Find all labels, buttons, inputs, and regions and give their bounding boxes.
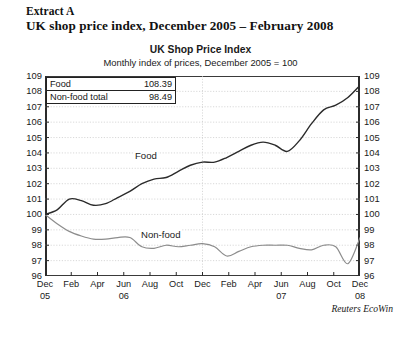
legend-series-value: 98.49 [149, 91, 172, 103]
chart-title: UK Shop Price Index [0, 44, 401, 55]
legend-series-name: Non-food total [50, 91, 108, 103]
legend-series-name: Food [50, 78, 71, 90]
source-attribution: Reuters EcoWin [0, 303, 393, 314]
y-tick-label: 107 [18, 102, 42, 112]
y-tick-label: 105 [18, 133, 42, 143]
gridlines [45, 91, 360, 260]
y-tick-label: 104 [364, 148, 380, 158]
y-tick-label: 100 [364, 209, 380, 219]
extract-heading: Extract A UK shop price index, December … [26, 4, 386, 34]
extract-label: Extract A [26, 4, 386, 18]
y-tick-label: 97 [364, 256, 374, 266]
y-tick-label: 108 [18, 86, 42, 96]
x-axis-year-labels: 05060708 [45, 291, 360, 303]
x-tick-label: Aug [299, 279, 315, 289]
y-tick-label: 104 [18, 148, 42, 158]
y-tick-label: 102 [18, 179, 42, 189]
chart-subtitle: Monthly index of prices, December 2005 =… [0, 57, 401, 68]
y-tick-label: 101 [18, 194, 42, 204]
y-tick-label: 106 [364, 117, 380, 127]
extract-title: UK shop price index, December 2005 – Feb… [26, 18, 386, 34]
chart-plot [45, 76, 360, 276]
x-tick-label: Apr [248, 279, 262, 289]
x-tick-label: Feb [221, 279, 237, 289]
legend-row: Non-food total 98.49 [47, 90, 175, 103]
y-tick-label: 98 [364, 240, 374, 250]
x-tick-label: Aug [142, 279, 158, 289]
series-annotation-food: Food [134, 150, 158, 161]
y-tick-label: 98 [18, 240, 42, 250]
x-tick-label: Apr [90, 279, 104, 289]
y-tick-label: 106 [18, 117, 42, 127]
x-tick-label: Dec [194, 279, 210, 289]
y-tick-label: 108 [364, 86, 380, 96]
x-tick-label: Oct [169, 279, 183, 289]
y-tick-label: 109 [364, 71, 380, 81]
y-tick-label: 101 [364, 194, 380, 204]
x-tick-label: Dec [352, 279, 368, 289]
x-year-label: 07 [276, 291, 286, 301]
legend-series-value: 108.39 [144, 78, 172, 90]
y-tick-label: 103 [364, 163, 380, 173]
x-axis-labels: DecFebAprJunAugOctDecFebAprJunAugOctDec [45, 279, 360, 291]
x-tick-marks [45, 272, 360, 276]
y-tick-marks-left [45, 76, 49, 276]
y-tick-label: 99 [364, 225, 374, 235]
x-tick-label: Oct [327, 279, 341, 289]
y-tick-label: 99 [18, 225, 42, 235]
legend-box: Food 108.39 Non-food total 98.49 [46, 77, 176, 104]
x-tick-label: Dec [37, 279, 53, 289]
y-axis-labels-left: 96979899100101102103104105106107108109 [18, 76, 42, 276]
y-tick-label: 107 [364, 102, 380, 112]
y-tick-label: 105 [364, 133, 380, 143]
x-tick-label: Jun [116, 279, 131, 289]
y-tick-label: 100 [18, 209, 42, 219]
y-axis-labels-right: 96979899100101102103104105106107108109 [364, 76, 394, 276]
screenshot-root: Extract A UK shop price index, December … [0, 0, 401, 337]
y-tick-label: 103 [18, 163, 42, 173]
x-year-label: 05 [40, 291, 50, 301]
series-annotation-nonfood: Non-food [140, 229, 181, 240]
legend-row: Food 108.39 [47, 78, 175, 90]
x-tick-label: Feb [63, 279, 79, 289]
x-tick-label: Jun [274, 279, 289, 289]
y-tick-label: 97 [18, 256, 42, 266]
y-tick-label: 109 [18, 71, 42, 81]
x-year-label: 08 [355, 291, 365, 301]
y-tick-label: 102 [364, 179, 380, 189]
x-year-label: 06 [119, 291, 129, 301]
